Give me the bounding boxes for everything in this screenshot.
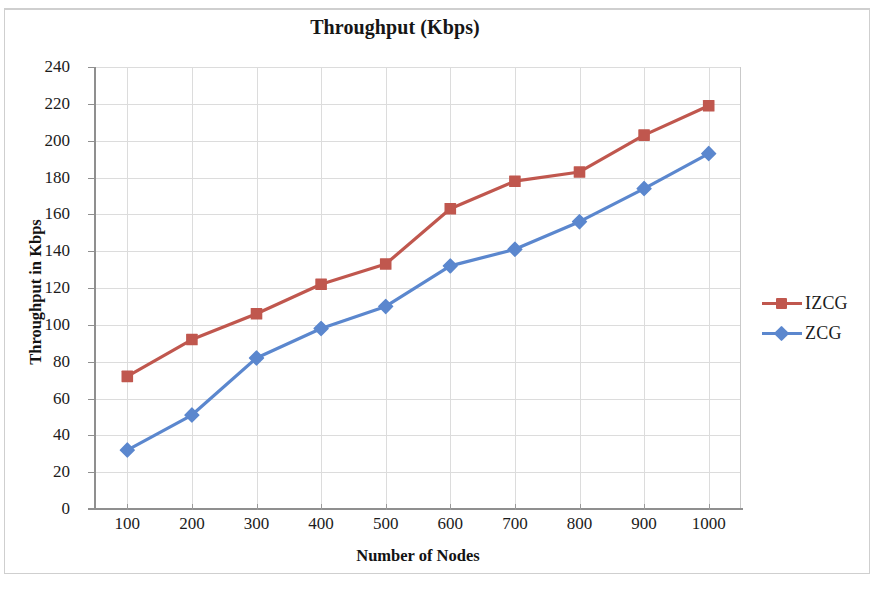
gridline-vertical	[321, 68, 322, 508]
gridline-vertical	[580, 68, 581, 508]
y-tick-mark	[88, 288, 95, 289]
x-tick-mark	[257, 504, 258, 510]
throughput-line-chart: Throughput (Kbps) 2402202001801601401201…	[0, 0, 877, 589]
x-tick-mark	[580, 504, 581, 510]
x-tick-mark	[709, 504, 710, 510]
legend-item-izcg: IZCG	[762, 288, 874, 318]
gridline-vertical	[386, 68, 387, 508]
gridline-vertical	[192, 68, 193, 508]
y-tick-mark	[88, 362, 95, 363]
y-tick-mark	[88, 325, 95, 326]
x-tick-label: 1000	[674, 515, 744, 532]
plot-area	[95, 67, 741, 509]
y-tick-label: 240	[10, 58, 70, 75]
x-tick-label: 200	[157, 515, 227, 532]
legend-swatch-zcg	[762, 326, 802, 340]
chart-legend: IZCG ZCG	[762, 288, 874, 348]
y-tick-label: 40	[10, 426, 70, 443]
y-tick-mark	[88, 435, 95, 436]
diamond-marker-icon	[774, 326, 790, 342]
x-tick-mark	[450, 504, 451, 510]
gridline-vertical	[644, 68, 645, 508]
y-tick-label: 20	[10, 463, 70, 480]
legend-label-zcg: ZCG	[802, 323, 842, 344]
y-tick-label: 200	[10, 132, 70, 149]
gridline-vertical	[127, 68, 128, 508]
legend-item-zcg: ZCG	[762, 318, 874, 348]
x-tick-mark	[192, 504, 193, 510]
x-tick-mark	[127, 504, 128, 510]
x-tick-label: 900	[609, 515, 679, 532]
x-tick-label: 400	[286, 515, 356, 532]
square-marker-icon	[776, 298, 787, 309]
x-tick-label: 100	[92, 515, 162, 532]
x-tick-mark	[644, 504, 645, 510]
x-tick-label: 700	[480, 515, 550, 532]
y-tick-mark	[88, 472, 95, 473]
x-tick-mark	[515, 504, 516, 510]
legend-label-izcg: IZCG	[802, 293, 848, 314]
x-tick-mark	[321, 504, 322, 510]
gridline-vertical	[257, 68, 258, 508]
x-tick-mark	[386, 504, 387, 510]
legend-swatch-izcg	[762, 296, 802, 310]
x-tick-label: 800	[545, 515, 615, 532]
x-axis-title: Number of Nodes	[95, 546, 741, 566]
y-tick-mark	[88, 141, 95, 142]
y-tick-mark	[88, 214, 95, 215]
gridline-vertical	[450, 68, 451, 508]
y-axis-title: Throughput in Kbps	[26, 172, 46, 412]
gridline-vertical	[709, 68, 710, 508]
y-tick-label: 220	[10, 95, 70, 112]
y-tick-mark	[88, 67, 95, 68]
x-tick-label: 500	[351, 515, 421, 532]
y-tick-mark	[88, 509, 95, 510]
y-tick-mark	[88, 104, 95, 105]
gridline-vertical	[515, 68, 516, 508]
y-tick-mark	[88, 399, 95, 400]
x-tick-label: 300	[222, 515, 292, 532]
x-tick-label: 600	[415, 515, 485, 532]
y-tick-mark	[88, 178, 95, 179]
chart-title: Throughput (Kbps)	[0, 16, 790, 39]
y-tick-label: 0	[10, 500, 70, 517]
y-tick-mark	[88, 251, 95, 252]
